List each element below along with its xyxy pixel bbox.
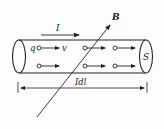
charge-row-2 (37, 64, 135, 68)
charge-icon (83, 46, 87, 50)
charge-row-1 (37, 46, 135, 50)
magnetic-field-arrow (37, 25, 110, 117)
velocity-label: v (62, 43, 67, 53)
field-label: B (111, 12, 120, 22)
current-element-label: Idl (74, 77, 87, 87)
charge-icon (113, 46, 117, 50)
wire-diagram: I q v S Idl B (0, 0, 164, 129)
charge-icon (113, 64, 117, 68)
left-cross-section (13, 40, 26, 73)
current-label: I (55, 23, 60, 33)
charge-icon (37, 46, 41, 50)
charge-icon (83, 64, 87, 68)
diagram-canvas: I q v S Idl B (0, 0, 164, 129)
charge-label: q (30, 43, 36, 53)
area-label: S (143, 52, 149, 62)
charge-icon (37, 64, 41, 68)
